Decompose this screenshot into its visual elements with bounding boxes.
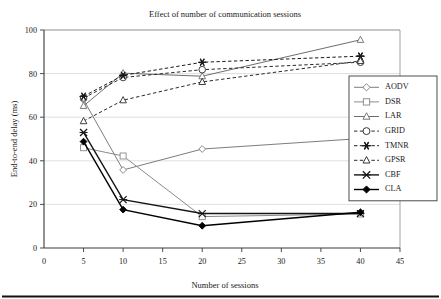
y-tick-label-0: 0 <box>33 244 37 253</box>
legend-box <box>349 76 437 201</box>
x-tick-label-35: 35 <box>317 257 325 266</box>
legend-label-lar: LAR <box>385 111 402 120</box>
x-tick-label-5: 5 <box>82 257 86 266</box>
marker-circle-open <box>199 66 206 73</box>
y-tick-label-100: 100 <box>25 26 37 35</box>
marker-square-open <box>120 153 126 159</box>
chart-title: Effect of number of communication sessio… <box>149 9 301 19</box>
legend-label-cbf: CBF <box>385 170 401 179</box>
legend-label-aodv: AODV <box>385 82 409 91</box>
x-tick-label-10: 10 <box>119 257 127 266</box>
y-tick-label-40: 40 <box>29 157 37 166</box>
legend-label-dsr: DSR <box>385 97 401 106</box>
x-tick-label-30: 30 <box>277 257 285 266</box>
legend-label-gpsr: GPSR <box>385 155 406 164</box>
x-tick-label-40: 40 <box>356 257 364 266</box>
x-tick-label-15: 15 <box>159 257 167 266</box>
marker-square-open <box>363 99 369 105</box>
chart-legend[interactable]: AODVDSRLARGRIDTMNRGPSRCBFCLA <box>349 76 437 201</box>
y-tick-label-60: 60 <box>29 113 37 122</box>
x-tick-label-0: 0 <box>42 257 46 266</box>
legend-label-tmnr: TMNR <box>385 141 409 150</box>
x-tick-label-45: 45 <box>396 257 404 266</box>
x-tick-label-20: 20 <box>198 257 206 266</box>
marker-square-open <box>199 214 205 220</box>
y-tick-label-20: 20 <box>29 200 37 209</box>
chart-figure: Effect of number of communication sessio… <box>0 0 441 299</box>
legend-label-cla: CLA <box>385 184 401 193</box>
y-axis-label: End-to-end delay (ms) <box>9 101 19 178</box>
x-axis-label: Number of sessions <box>191 280 258 290</box>
marker-circle-open <box>363 128 370 135</box>
y-tick-label-80: 80 <box>29 70 37 79</box>
x-tick-label-25: 25 <box>238 257 246 266</box>
legend-label-grid: GRID <box>385 126 405 135</box>
